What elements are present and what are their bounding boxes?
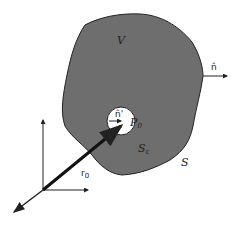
volume-region: [62, 14, 203, 175]
position-vector-label: r0: [81, 169, 89, 180]
inner-normal-label: n̂': [115, 110, 123, 119]
inner-surface-label-sub: ε: [146, 148, 150, 156]
inner-surface-label-text: S: [138, 142, 146, 155]
inner-surface-label: Sε: [138, 143, 149, 156]
volume-label: V: [117, 35, 125, 46]
outer-surface-label: S: [181, 157, 189, 168]
position-vector-label-sub: 0: [85, 172, 89, 180]
point-label: P0: [130, 117, 142, 130]
outer-normal-label: n̂: [211, 63, 217, 72]
point-label-sub: 0: [137, 122, 141, 130]
z-axis: [14, 190, 43, 212]
